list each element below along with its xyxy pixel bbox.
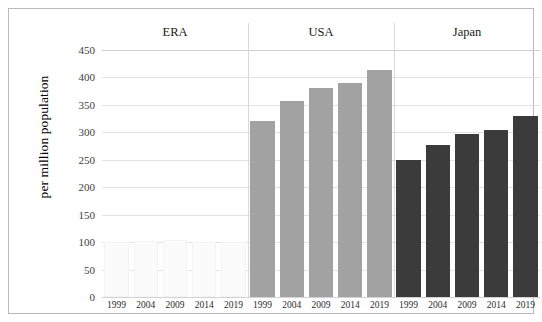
bar-usa-2004 [280,101,305,298]
y-tick-label-250: 250 [79,154,96,166]
y-tick-label-450: 450 [79,44,96,56]
x-tick-label-era-2014: 2014 [190,300,219,310]
bar-era-2019 [221,242,246,297]
bar-era-2009 [163,240,188,297]
chart-frame: per million population ERAUSAJapan 45040… [8,8,534,314]
y-tick-label-150: 150 [79,209,96,221]
y-tick-label-400: 400 [79,71,96,83]
chart-container: per million population ERAUSAJapan 45040… [0,0,542,322]
bar-era-1999 [104,242,129,297]
x-tick-label-japan-1999: 1999 [394,300,423,310]
x-tick-label-usa-2004: 2004 [277,300,306,310]
bar-japan-1999 [396,160,421,297]
y-tick-label-300: 300 [79,126,96,138]
x-tick-label-japan-2009: 2009 [452,300,481,310]
y-tick-label-100: 100 [79,236,96,248]
y-tick-label-350: 350 [79,99,96,111]
x-tick-label-era-2009: 2009 [160,300,189,310]
group-label-era: ERA [102,23,248,50]
x-tick-label-japan-2019: 2019 [511,300,540,310]
group-label-japan: Japan [394,23,540,50]
bar-japan-2009 [455,134,480,297]
x-tick-label-japan-2014: 2014 [482,300,511,310]
bar-usa-2009 [309,88,334,297]
x-tick-label-japan-2004: 2004 [423,300,452,310]
x-tick-label-usa-1999: 1999 [248,300,277,310]
x-tick-label-usa-2019: 2019 [365,300,394,310]
bar-era-2014 [192,242,217,297]
gridline-400: 400 [102,77,540,78]
bar-japan-2019 [513,116,538,297]
y-axis-title: per million population [36,52,52,222]
y-tick-label-50: 50 [84,264,95,276]
x-tick-label-era-1999: 1999 [102,300,131,310]
bar-japan-2014 [484,130,509,297]
bar-usa-2019 [367,70,392,297]
x-tick-label-era-2019: 2019 [219,300,248,310]
group-header-band: ERAUSAJapan [102,23,540,50]
gridline-450: 450 [102,50,540,51]
x-tick-label-usa-2014: 2014 [336,300,365,310]
x-tick-label-era-2004: 2004 [131,300,160,310]
bar-era-2004 [134,241,159,297]
x-axis-label-row: 1999200420092014201919992004200920142019… [102,300,540,316]
group-label-usa: USA [248,23,394,50]
bar-japan-2004 [426,145,451,297]
bar-usa-2014 [338,83,363,297]
gridline-0: 0 [102,297,540,298]
group-separator-1 [248,23,249,297]
plot-area: 450400350300250200150100500 [102,50,540,297]
y-tick-label-0: 0 [90,291,96,303]
bar-usa-1999 [250,121,275,297]
group-separator-2 [394,23,395,297]
y-tick-label-200: 200 [79,181,96,193]
x-tick-label-usa-2009: 2009 [306,300,335,310]
